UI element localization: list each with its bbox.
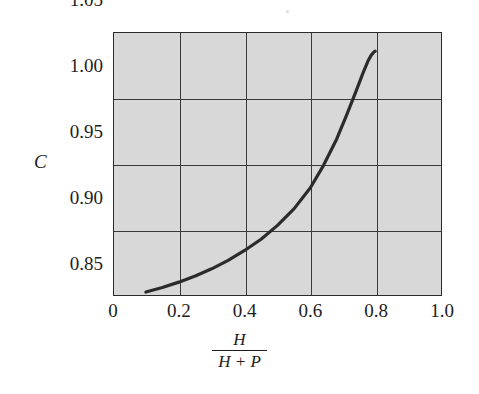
- x-axis-fraction: H H + P: [212, 330, 267, 371]
- x-tick-label: 1.0: [430, 300, 454, 322]
- y-tick-label: 0.90: [70, 187, 103, 209]
- x-tick-label: 0: [108, 300, 118, 322]
- fraction-denominator: H + P: [212, 351, 267, 371]
- x-tick-label: 0.8: [364, 300, 388, 322]
- x-tick-label: 0.2: [167, 300, 191, 322]
- y-tick-label: 1.05: [70, 0, 103, 11]
- x-tick-label: 0.4: [233, 300, 257, 322]
- x-axis-title: H H + P: [0, 330, 479, 371]
- y-tick-label: 0.95: [70, 121, 103, 143]
- data-curve: [113, 32, 442, 296]
- y-tick-label: 0.85: [70, 253, 103, 275]
- x-tick-label: 0.6: [299, 300, 323, 322]
- y-tick-labels: 0.85 0.90 0.95 1.00 1.05: [40, 0, 108, 264]
- chart-figure: C 0.85 0.90 0.95 1.00 1.05 0 0.2 0.4 0.6…: [0, 0, 479, 394]
- fraction-numerator: H: [212, 330, 267, 351]
- y-tick-label: 1.00: [70, 55, 103, 77]
- x-tick-labels: 0 0.2 0.4 0.6 0.8 1.0: [113, 298, 442, 326]
- page-speck: [286, 10, 289, 13]
